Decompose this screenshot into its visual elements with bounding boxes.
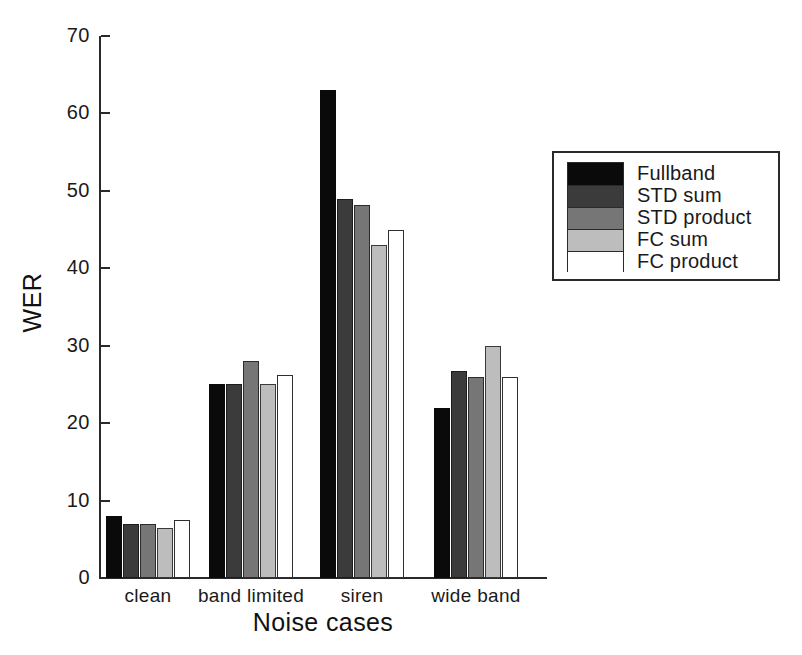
bar-group	[209, 36, 293, 578]
bar	[260, 384, 276, 578]
legend-white-swatch	[568, 251, 623, 273]
bar-group	[320, 36, 404, 578]
bar-chart-figure: 706050403020100 WER cleanband limitedsir…	[0, 0, 802, 655]
bar-group	[434, 36, 518, 578]
bar	[468, 377, 484, 578]
bar	[485, 346, 501, 578]
legend: FullbandSTD sumSTD productFC sumFC produ…	[552, 151, 780, 281]
y-axis-tick-label: 50	[50, 180, 90, 200]
y-axis-tick-label: 20	[50, 412, 90, 432]
bar	[157, 528, 173, 578]
bar	[174, 520, 190, 578]
bar	[337, 199, 353, 578]
bar	[320, 90, 336, 578]
bar	[502, 377, 518, 578]
bar	[451, 371, 467, 579]
legend-medium-gray-swatch	[568, 207, 623, 229]
legend-label: FC sum	[637, 228, 708, 250]
legend-swatch-column	[567, 162, 624, 272]
bar	[209, 384, 225, 578]
bar	[140, 524, 156, 578]
bar	[388, 230, 404, 578]
legend-dark-gray-swatch	[568, 185, 623, 207]
y-axis-tick-label: 70	[50, 25, 90, 45]
legend-label: Fullband	[637, 162, 715, 184]
plot-area	[99, 36, 547, 578]
y-axis-tick-label: 60	[50, 102, 90, 122]
legend-label: STD sum	[637, 184, 722, 206]
x-axis-title: Noise cases	[99, 608, 547, 636]
x-axis-group-label: wide band	[396, 585, 556, 607]
y-axis-tick-label: 0	[50, 567, 90, 587]
bar	[243, 361, 259, 578]
y-axis-tick-labels: 706050403020100	[46, 0, 90, 655]
y-axis-tick-label: 40	[50, 257, 90, 277]
bar-group	[106, 36, 190, 578]
bar	[106, 516, 122, 578]
legend-label: FC product	[637, 250, 738, 272]
bar	[277, 375, 293, 578]
y-axis-title: WER	[20, 258, 45, 348]
bar	[123, 524, 139, 578]
y-axis-tick-label: 30	[50, 335, 90, 355]
y-axis-tick-label: 10	[50, 490, 90, 510]
bar	[371, 245, 387, 578]
bar	[354, 205, 370, 578]
legend-black-swatch	[568, 163, 623, 185]
bar	[226, 384, 242, 578]
legend-label: STD product	[637, 206, 751, 228]
legend-light-gray-swatch	[568, 229, 623, 251]
bar	[434, 408, 450, 578]
